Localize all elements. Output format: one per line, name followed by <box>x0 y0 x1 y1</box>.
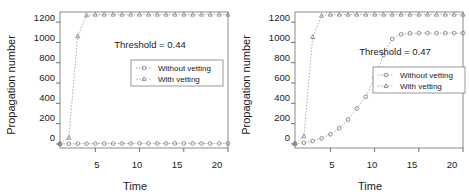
y-tick-labels-left: 1200 1000 800 600 400 200 0 <box>34 12 55 143</box>
annotation-group-right: Threshold = 0.47 <box>359 46 431 57</box>
legend-left[interactable]: Without vettingWith vetting <box>131 60 223 86</box>
y-tick-label: 800 <box>274 52 290 63</box>
x-axis-title: Time <box>123 180 147 192</box>
threshold-annotation: Threshold = 0.47 <box>359 46 431 57</box>
y-tick-label: 800 <box>39 52 55 63</box>
y-tick-label: 1200 <box>34 12 55 23</box>
chart-svg-left: Propagation number Time 1200 1000 800 60… <box>0 0 234 195</box>
legend-label: With vetting <box>158 75 200 84</box>
x-tick-label: 10 <box>132 159 143 170</box>
y-tick-label: 200 <box>39 112 55 123</box>
x-axis-title-group-right: Time <box>357 180 381 192</box>
annotation-group-left: Threshold = 0.44 <box>114 39 186 50</box>
legend-label: Without vetting <box>400 71 453 80</box>
figure-two-panel-chart: Propagation number Time 1200 1000 800 60… <box>0 0 469 195</box>
data-point-marker <box>346 118 350 122</box>
threshold-annotation: Threshold = 0.44 <box>114 39 186 50</box>
x-tick-label: 10 <box>366 159 377 170</box>
y-tick-label: 400 <box>274 92 290 103</box>
data-point-marker <box>301 134 305 138</box>
y-tick-label: 0 <box>284 132 289 143</box>
x-tick-labels-right: 5 10 15 20 <box>329 159 457 170</box>
x-tick-label: 15 <box>172 159 183 170</box>
y-axis-title-group-left: Propagation number <box>5 35 17 135</box>
data-point-marker <box>390 37 394 41</box>
y-tick-label: 1000 <box>268 32 289 43</box>
y-tick-labels-right: 1200 1000 800 600 400 200 0 <box>268 12 289 143</box>
data-point-marker <box>328 132 332 136</box>
data-point-marker <box>337 126 341 130</box>
chart-panel-right: Propagation number Time 1200 1000 800 60… <box>235 0 469 195</box>
legend-label: Without vetting <box>158 64 211 73</box>
x-tick-label: 5 <box>94 159 99 170</box>
y-axis-title: Propagation number <box>240 35 252 135</box>
y-tick-label: 200 <box>274 112 290 123</box>
y-tick-label: 1200 <box>268 12 289 23</box>
chart-panel-left: Propagation number Time 1200 1000 800 60… <box>0 0 235 195</box>
y-tick-label: 600 <box>39 72 55 83</box>
y-tick-label: 600 <box>274 72 290 83</box>
x-axis-title: Time <box>357 180 381 192</box>
x-tick-labels-left: 5 10 15 20 <box>94 159 222 170</box>
x-tick-label: 5 <box>329 159 334 170</box>
legend-label: With vetting <box>400 82 442 91</box>
x-tick-label: 20 <box>446 159 457 170</box>
y-tick-label: 1000 <box>34 32 55 43</box>
legend-right[interactable]: Without vettingWith vetting <box>373 67 465 93</box>
y-axis-title: Propagation number <box>5 35 17 135</box>
y-tick-label: 0 <box>50 132 55 143</box>
x-tick-label: 15 <box>406 159 417 170</box>
chart-svg-right: Propagation number Time 1200 1000 800 60… <box>235 0 469 195</box>
x-axis-title-group-left: Time <box>123 180 147 192</box>
y-axis-title-group-right: Propagation number <box>240 35 252 135</box>
data-point-marker <box>363 95 367 99</box>
x-tick-label: 20 <box>212 159 223 170</box>
y-tick-label: 400 <box>39 92 55 103</box>
